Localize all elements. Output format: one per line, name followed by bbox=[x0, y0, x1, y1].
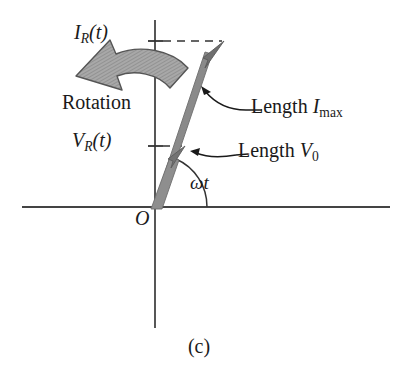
rotation-arrow-shape bbox=[76, 40, 188, 90]
voltage-phasor bbox=[151, 146, 185, 209]
rotation-arrow-icon bbox=[76, 40, 188, 90]
leader-voltage-arrowhead bbox=[190, 148, 200, 156]
label-length-current: Length Imax bbox=[251, 96, 343, 119]
figure-caption: (c) bbox=[0, 336, 398, 356]
leader-current-arrowhead bbox=[201, 86, 211, 95]
label-length-voltage-symbol: V bbox=[300, 139, 312, 161]
label-origin: O bbox=[135, 208, 149, 228]
label-length-voltage-subscript: 0 bbox=[312, 149, 319, 164]
label-length-current-subscript: max bbox=[319, 105, 342, 120]
leader-voltage-curve bbox=[196, 153, 236, 157]
label-length-voltage: Length V0 bbox=[238, 140, 319, 163]
label-rotation: Rotation bbox=[62, 92, 131, 112]
label-voltage-projection: VR(t) bbox=[72, 130, 111, 153]
label-length-current-prefix: Length bbox=[251, 95, 313, 117]
label-length-voltage-prefix: Length bbox=[238, 139, 300, 161]
label-current-projection: IR(t) bbox=[74, 22, 108, 45]
label-angle-wt: ωt bbox=[190, 173, 209, 192]
phasor-diagram-figure: IR(t) VR(t) Rotation Length Imax Length … bbox=[0, 0, 398, 379]
leader-current-curve bbox=[205, 91, 246, 110]
